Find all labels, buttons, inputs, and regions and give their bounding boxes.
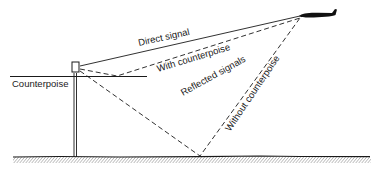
antenna-mast [74, 73, 77, 157]
counterpoise-diagram: Counterpoise Direct signal With counterp… [0, 0, 378, 173]
antenna-box-icon [72, 62, 79, 72]
ground-line [13, 156, 370, 157]
ground-hatching [13, 157, 371, 163]
counterpoise-label: Counterpoise [12, 78, 69, 89]
ground [13, 156, 371, 163]
direct-signal-label: Direct signal [137, 26, 190, 48]
airplane-icon [299, 9, 337, 18]
